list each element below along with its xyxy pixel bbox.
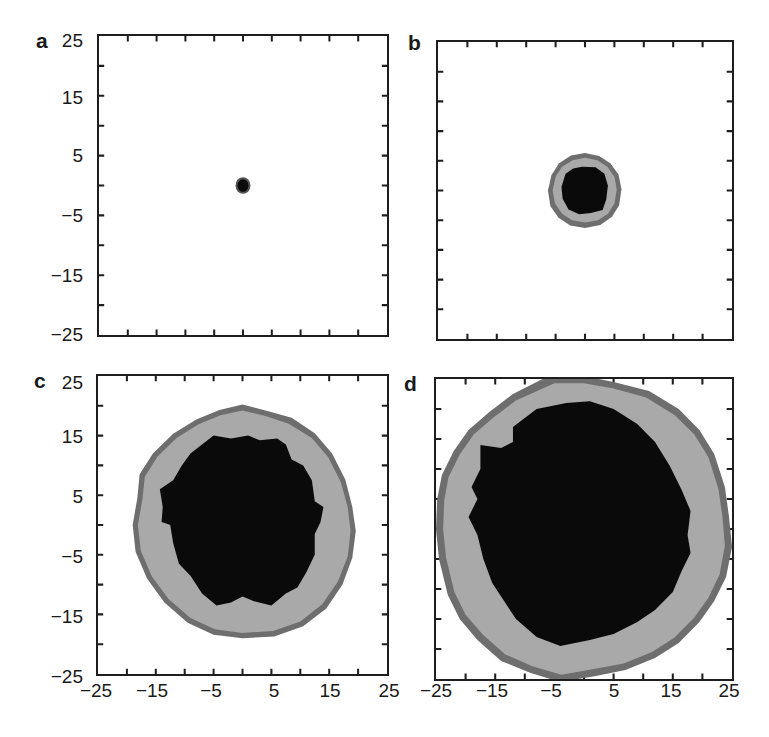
y-tick: 15 (33, 88, 83, 107)
core-region (561, 167, 607, 215)
y-tick: 5 (33, 146, 83, 165)
x-tick: 15 (646, 681, 696, 700)
y-tick: 25 (33, 373, 83, 392)
x-tick: −15 (127, 681, 177, 700)
x-tick: −25 (71, 681, 121, 700)
panel-label-b: b (408, 32, 421, 53)
plot-area-a (97, 34, 389, 337)
plot-area-d (434, 377, 734, 681)
x-tick: −5 (526, 681, 576, 700)
x-tick: −5 (186, 681, 236, 700)
plot-svg-b (438, 42, 732, 339)
y-tick: −5 (33, 547, 83, 566)
x-tick: 5 (589, 681, 639, 700)
panel-label-d: d (404, 373, 417, 394)
x-tick: −15 (467, 681, 517, 700)
plot-area-c (96, 374, 389, 676)
plot-area-b (436, 40, 734, 341)
core-region (238, 179, 249, 192)
y-tick: 5 (33, 487, 83, 506)
plot-svg-c (98, 376, 387, 674)
y-tick: 25 (33, 31, 83, 50)
x-tick: 5 (249, 681, 299, 700)
x-tick: 15 (305, 681, 355, 700)
y-tick: −15 (33, 266, 83, 285)
plot-svg-a (99, 36, 387, 335)
y-tick: −25 (33, 325, 83, 344)
y-tick: −5 (33, 206, 83, 225)
y-tick: −15 (33, 607, 83, 626)
x-tick: 25 (704, 681, 754, 700)
x-tick: 25 (364, 681, 414, 700)
plot-svg-d (436, 379, 732, 679)
x-tick: −25 (411, 681, 461, 700)
y-tick: 15 (33, 427, 83, 446)
